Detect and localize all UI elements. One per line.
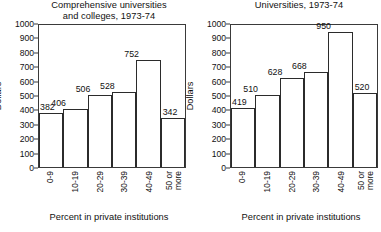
bar-cell: 419 <box>231 25 255 167</box>
chart-title-line-1: Comprehensive universities <box>30 0 188 11</box>
bar-40-49 <box>136 60 160 167</box>
bar-cell: 520 <box>353 25 377 167</box>
x-tick-label-line-1: 30-39 <box>119 171 129 192</box>
y-tick-label: 300 <box>212 120 226 129</box>
x-axis: 0-910-1920-2930-3940-4950 ormore <box>38 170 186 210</box>
bar-30-39 <box>304 72 328 167</box>
plot-area: 419510628668950520 <box>230 24 378 168</box>
y-tick-label: 400 <box>20 106 34 115</box>
x-axis-title: Percent in private institutions <box>222 212 380 222</box>
y-tick-label: 500 <box>20 92 34 101</box>
x-tick-label-line-1: 10-19 <box>262 171 272 192</box>
x-tick-label-line-1: 20-29 <box>286 171 296 192</box>
x-tick-cell: 10-19 <box>63 170 88 210</box>
x-tick-label: 0-9 <box>46 171 55 183</box>
x-tick-label: 20-29 <box>287 171 296 192</box>
x-tick-label: 30-39 <box>120 171 129 192</box>
bar-value-label: 628 <box>268 68 283 77</box>
y-tick-label: 200 <box>20 135 34 144</box>
x-tick-cell: 30-39 <box>112 170 137 210</box>
bar-value-label: 528 <box>100 82 115 91</box>
x-tick-label-line-1: 40-49 <box>144 171 154 192</box>
x-tick-label-line-2: more <box>366 171 375 190</box>
bar-cell: 342 <box>161 25 185 167</box>
x-tick-label: 50 ormore <box>165 171 183 190</box>
bar-cell: 510 <box>255 25 279 167</box>
x-tick-cell: 50 ormore <box>161 170 186 210</box>
chart-title: Universities, 1973-74 <box>220 0 378 11</box>
x-tick-label-line-1: 40-49 <box>336 171 346 192</box>
x-tick-label: 10-19 <box>71 171 80 192</box>
x-tick-cell: 40-49 <box>137 170 162 210</box>
y-tick-label: 900 <box>20 34 34 43</box>
bar-20-29 <box>88 95 112 167</box>
bar-cell: 382 <box>39 25 63 167</box>
y-axis-title: Dollars <box>185 82 195 111</box>
chart-figure: Comprehensive universitiesand colleges, … <box>0 0 381 232</box>
x-tick-label: 0-9 <box>238 171 247 183</box>
chart-panel-comprehensive: Comprehensive universitiesand colleges, … <box>0 0 190 232</box>
bar-cell: 950 <box>328 25 352 167</box>
bar-value-label: 419 <box>232 98 247 107</box>
y-tick-label: 700 <box>20 63 34 72</box>
bar-0-9 <box>39 113 63 167</box>
bar-50-or-more <box>353 93 377 167</box>
y-tick-label: 600 <box>20 77 34 86</box>
bar-value-label: 510 <box>243 85 258 94</box>
bar-cell: 506 <box>88 25 112 167</box>
y-tick-label: 500 <box>212 92 226 101</box>
bar-cell: 406 <box>63 25 87 167</box>
x-tick-label-line-1: 20-29 <box>94 171 104 192</box>
x-tick-label: 40-49 <box>337 171 346 192</box>
y-tick-label: 100 <box>20 149 34 158</box>
x-tick-cell: 0-9 <box>38 170 63 210</box>
x-tick-label: 50 ormore <box>357 171 375 190</box>
x-tick-cell: 10-19 <box>255 170 280 210</box>
x-tick-label-line-1: 0-9 <box>45 171 55 183</box>
y-axis: Dollars 10009008007006005004003002001000 <box>0 24 38 168</box>
bar-30-39 <box>112 92 136 167</box>
x-tick-label-line-1: 10-19 <box>70 171 80 192</box>
y-tick-label: 900 <box>212 34 226 43</box>
chart-panel-universities: Universities, 1973-74 Dollars 1000900800… <box>190 0 381 232</box>
bar-series: 382406506528752342 <box>39 25 185 167</box>
y-tick-label: 200 <box>212 135 226 144</box>
y-tick-label: 100 <box>212 149 226 158</box>
bar-cell: 528 <box>112 25 136 167</box>
y-axis: Dollars 10009008007006005004003002001000 <box>190 24 230 168</box>
x-tick-cell: 20-29 <box>279 170 304 210</box>
x-tick-cell: 40-49 <box>329 170 354 210</box>
bar-0-9 <box>231 108 255 167</box>
x-tick-label-line-1: 30-39 <box>311 171 321 192</box>
x-tick-cell: 0-9 <box>230 170 255 210</box>
x-axis-title: Percent in private institutions <box>30 212 188 222</box>
bar-50-or-more <box>161 118 185 167</box>
y-tick-label: 600 <box>212 77 226 86</box>
y-tick-label: 800 <box>20 48 34 57</box>
bar-value-label: 950 <box>316 22 331 31</box>
x-tick-label-line-1: 0-9 <box>237 171 247 183</box>
y-tick-label: 300 <box>20 120 34 129</box>
bar-10-19 <box>255 95 279 167</box>
x-tick-label: 20-29 <box>95 171 104 192</box>
x-axis: 0-910-1920-2930-3940-4950 ormore <box>230 170 378 210</box>
chart-title-line-2: and colleges, 1973-74 <box>30 11 188 22</box>
bar-cell: 752 <box>136 25 160 167</box>
bar-20-29 <box>280 78 304 167</box>
bar-value-label: 406 <box>51 99 66 108</box>
y-axis-title: Dollars <box>0 82 3 111</box>
bar-value-label: 506 <box>76 85 91 94</box>
x-tick-label-line-2: more <box>174 171 183 190</box>
bar-value-label: 752 <box>124 50 139 59</box>
x-tick-cell: 30-39 <box>304 170 329 210</box>
x-tick-cell: 50 ormore <box>353 170 378 210</box>
x-tick-label: 10-19 <box>263 171 272 192</box>
y-tick-label: 700 <box>212 63 226 72</box>
bar-series: 419510628668950520 <box>231 25 377 167</box>
y-tick-label: 400 <box>212 106 226 115</box>
chart-title: Comprehensive universitiesand colleges, … <box>30 0 188 22</box>
bar-40-49 <box>328 32 352 167</box>
chart-title-line-1: Universities, 1973-74 <box>220 0 378 11</box>
bar-value-label: 668 <box>292 62 307 71</box>
bar-cell: 628 <box>280 25 304 167</box>
